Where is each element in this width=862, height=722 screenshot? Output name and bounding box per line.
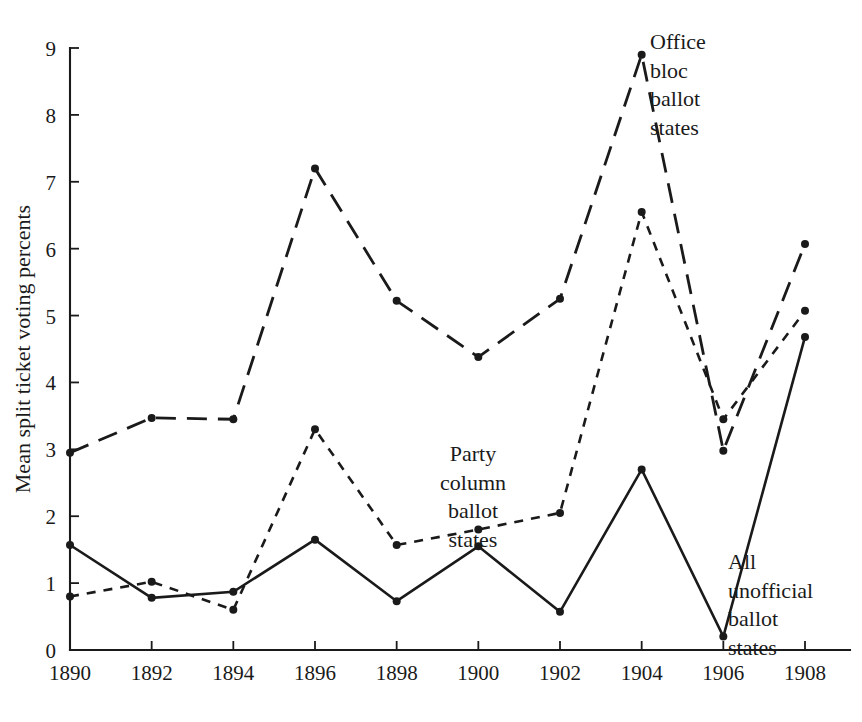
x-axis-tick-label: 1896 xyxy=(294,661,336,685)
data-point xyxy=(556,509,564,517)
annotation-party-column-ballot-states: Party column ballot states xyxy=(440,440,506,554)
y-axis-tick-label: 1 xyxy=(46,572,57,596)
y-axis-tick-label: 0 xyxy=(46,639,57,663)
annotation-all-unofficial-ballot-states: All unofficial ballot states xyxy=(728,548,813,662)
y-axis-tick-label: 6 xyxy=(46,238,57,262)
data-point xyxy=(474,353,482,361)
x-axis-tick-label: 1904 xyxy=(621,661,664,685)
y-axis-tick-label: 9 xyxy=(46,37,57,61)
x-axis-tick-label: 1890 xyxy=(49,661,91,685)
data-point xyxy=(66,449,74,457)
y-axis-title: Mean split ticket voting percents xyxy=(10,205,35,493)
data-point xyxy=(719,447,727,455)
x-axis-tick-label: 1898 xyxy=(376,661,418,685)
annotation-office-bloc-ballot-states: Office bloc ballot states xyxy=(650,28,706,142)
data-point xyxy=(66,541,74,549)
data-point xyxy=(801,333,809,341)
data-point xyxy=(148,594,156,602)
x-axis-tick-label: 1892 xyxy=(131,661,173,685)
series-line-2 xyxy=(70,337,805,637)
series-line-1 xyxy=(70,212,805,610)
x-axis-tick-label: 1894 xyxy=(212,661,255,685)
y-axis-tick-label: 4 xyxy=(46,371,57,395)
x-axis-tick-label: 1902 xyxy=(539,661,581,685)
data-point xyxy=(229,415,237,423)
data-point xyxy=(229,588,237,596)
data-point xyxy=(801,307,809,315)
y-axis-tick-label: 2 xyxy=(46,505,57,529)
chart-figure: 0123456789189018921894189618981900190219… xyxy=(0,0,862,722)
data-point xyxy=(311,164,319,172)
data-point xyxy=(556,608,564,616)
data-point xyxy=(229,606,237,614)
data-point xyxy=(311,536,319,544)
data-point xyxy=(393,297,401,305)
y-axis-label: Mean split ticket voting percents xyxy=(10,205,35,493)
y-axis-tick-label: 5 xyxy=(46,305,57,329)
data-point xyxy=(66,592,74,600)
data-point xyxy=(311,425,319,433)
y-axis-tick-label: 8 xyxy=(46,104,57,128)
y-axis-tick-label: 3 xyxy=(46,438,57,462)
data-point xyxy=(719,415,727,423)
data-point xyxy=(638,465,646,473)
data-point xyxy=(393,541,401,549)
data-point xyxy=(393,597,401,605)
data-point xyxy=(801,240,809,248)
x-axis-tick-label: 1908 xyxy=(784,661,826,685)
x-axis-tick-label: 1906 xyxy=(702,661,744,685)
data-point xyxy=(148,414,156,422)
data-point xyxy=(556,295,564,303)
data-point xyxy=(638,51,646,59)
y-axis-tick-label: 7 xyxy=(46,171,57,195)
data-point xyxy=(148,578,156,586)
data-point xyxy=(638,208,646,216)
x-axis-tick-label: 1900 xyxy=(457,661,499,685)
data-point xyxy=(719,633,727,641)
